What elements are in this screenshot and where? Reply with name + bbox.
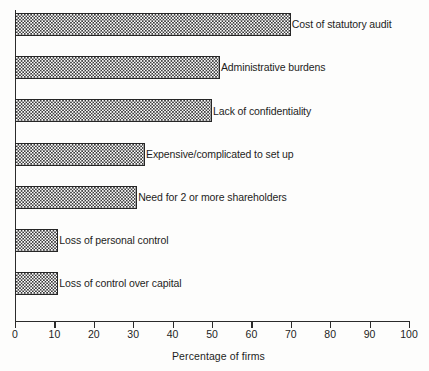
bar-chart: Cost of statutory auditAdministrative bu… [0,0,429,371]
bar [15,143,145,166]
bar [15,272,58,295]
bar-row: Need for 2 or more shareholders [15,186,287,209]
bar [15,99,212,122]
bar-label: Administrative burdens [220,62,326,73]
x-tick-label: 90 [364,329,376,340]
x-tick-mark [251,321,252,328]
x-tick-mark [94,321,95,328]
bar [15,56,220,79]
x-tick-label: 70 [285,329,297,340]
x-tick-label: 20 [88,329,100,340]
bar-row: Cost of statutory audit [15,13,392,36]
x-tick-label: 40 [167,329,179,340]
x-axis-title: Percentage of firms [0,350,429,362]
bar-label: Need for 2 or more shareholders [137,192,287,203]
x-tick-mark [291,321,292,328]
x-tick-mark [409,321,410,328]
x-tick-mark [173,321,174,328]
bars-layer: Cost of statutory auditAdministrative bu… [0,0,429,326]
bar-label: Expensive/complicated to set up [145,149,293,160]
bar-row: Administrative burdens [15,56,325,79]
bar-row: Expensive/complicated to set up [15,143,294,166]
bar [15,186,137,209]
bar [15,229,58,252]
x-tick-mark [212,321,213,328]
bar-row: Loss of control over capital [15,272,181,295]
x-tick-label: 80 [324,329,336,340]
x-tick-label: 100 [400,329,418,340]
x-tick-label: 0 [12,329,18,340]
x-tick-mark [133,321,134,328]
bar-row: Loss of personal control [15,229,168,252]
bar-row: Lack of confidentiality [15,99,311,122]
bar-label: Loss of personal control [58,235,168,246]
bar-label: Lack of confidentiality [212,106,311,117]
x-tick-mark [330,321,331,328]
plot-area: Cost of statutory auditAdministrative bu… [0,0,429,326]
x-tick-mark [370,321,371,328]
x-tick-mark [15,321,16,328]
x-tick-label: 60 [246,329,258,340]
bar [15,13,291,36]
bar-label: Cost of statutory audit [291,19,392,30]
x-tick-label: 30 [127,329,139,340]
x-tick-label: 50 [206,329,218,340]
x-tick-label: 10 [49,329,61,340]
x-tick-mark [54,321,55,328]
x-axis-title-label: Percentage of firms [164,350,265,362]
bar-label: Loss of control over capital [58,278,181,289]
